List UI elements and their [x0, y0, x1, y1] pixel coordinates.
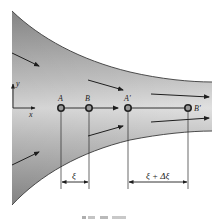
x-axis-label: x	[28, 110, 33, 119]
point-a-label: A	[57, 94, 63, 103]
point-b-label: B	[85, 94, 90, 103]
dimension-xi-label: ξ	[72, 171, 76, 181]
figure-caption-cutoff	[0, 211, 221, 219]
y-axis-label: y	[15, 79, 20, 88]
point-bprime	[185, 105, 191, 111]
point-b	[86, 105, 92, 111]
point-a	[58, 105, 64, 111]
point-aprime-label: A′	[123, 94, 131, 103]
caption-remnant	[82, 216, 126, 219]
point-bprime-label: B′	[194, 104, 201, 113]
converging-flow-diagram: y x A B A′ B′ ξ ξ + Δξ	[0, 0, 221, 219]
dimension-xi-plus-dxi-label: ξ + Δξ	[146, 171, 170, 181]
point-aprime	[125, 105, 131, 111]
